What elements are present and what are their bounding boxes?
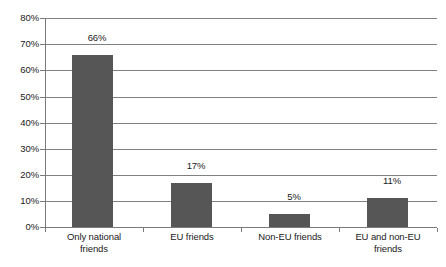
y-axis-labels: 80% 70% 60% 50% 40% 30% 20% 10% 0%	[0, 0, 39, 267]
bar-data-label: 5%	[249, 191, 339, 202]
bar-data-label: 66%	[52, 32, 142, 43]
bar	[72, 55, 113, 227]
x-axis-category-label: EU and non-EU friends	[339, 231, 437, 254]
bar-data-label: 17%	[151, 160, 241, 171]
x-axis-tick	[437, 228, 438, 232]
bar-chart: 80% 70% 60% 50% 40% 30% 20% 10% 0%	[0, 0, 446, 267]
y-axis-tick-label: 10%	[1, 196, 39, 206]
bar	[171, 183, 212, 227]
y-axis-tick-label: 20%	[1, 170, 39, 180]
gridline	[45, 44, 437, 45]
x-axis-category-label: Only national friends	[45, 231, 143, 254]
y-axis-tick-label: 40%	[1, 118, 39, 128]
y-axis-tick-label: 50%	[1, 92, 39, 102]
gridline	[45, 18, 437, 19]
plot-area	[45, 18, 437, 227]
bar	[269, 214, 310, 227]
y-axis-tick-label: 30%	[1, 144, 39, 154]
bar-data-label: 11%	[347, 175, 437, 186]
x-axis-category-label: EU friends	[143, 231, 241, 243]
y-axis-tick-label: 0%	[1, 222, 39, 232]
y-axis-tick-label: 60%	[1, 65, 39, 75]
y-axis-line	[45, 18, 46, 228]
bar	[367, 198, 408, 227]
x-axis-category-label: Non-EU friends	[241, 231, 339, 243]
y-axis-tick-label: 70%	[1, 39, 39, 49]
y-axis-tick-label: 80%	[1, 13, 39, 23]
